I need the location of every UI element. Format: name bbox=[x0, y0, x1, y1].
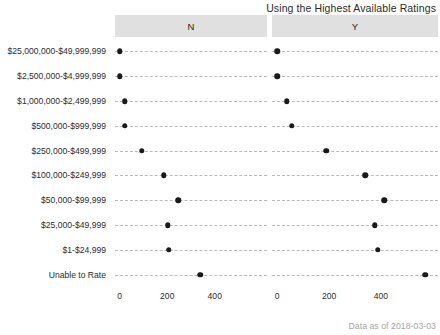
gridline-row bbox=[272, 200, 438, 201]
y-axis-label: $250,000-$499,999 bbox=[31, 145, 106, 157]
gridline-row bbox=[115, 101, 267, 102]
gridline-row bbox=[272, 76, 438, 77]
gridline-row bbox=[272, 151, 438, 152]
data-point[interactable] bbox=[176, 197, 182, 203]
facet-strip-n: N bbox=[115, 15, 267, 37]
gridline-row bbox=[115, 51, 267, 52]
gridline-row bbox=[272, 275, 438, 276]
facet-strip-label-n: N bbox=[115, 15, 267, 37]
y-axis-label: Unable to Rate bbox=[49, 269, 106, 281]
data-point[interactable] bbox=[422, 272, 428, 278]
data-point[interactable] bbox=[166, 247, 172, 253]
gridline-row bbox=[272, 126, 438, 127]
data-point[interactable] bbox=[274, 49, 280, 55]
data-point[interactable] bbox=[165, 222, 171, 228]
y-axis-label: $500,000-$999,999 bbox=[31, 120, 106, 132]
y-axis-label: $25,000-$49,999 bbox=[41, 219, 106, 231]
panel-n bbox=[115, 39, 267, 287]
x-tick-label: 200 bbox=[160, 291, 174, 301]
data-point[interactable] bbox=[324, 148, 330, 154]
x-tick-label: 0 bbox=[117, 291, 122, 301]
data-point[interactable] bbox=[363, 173, 369, 179]
chart-caption: Data as of 2018-03-03 bbox=[0, 321, 436, 331]
data-point[interactable] bbox=[375, 247, 381, 253]
gridline-row bbox=[115, 151, 267, 152]
data-point[interactable] bbox=[122, 98, 128, 104]
y-axis-label: $100,000-$249,999 bbox=[31, 169, 106, 181]
gridline-row bbox=[272, 101, 438, 102]
gridline-row bbox=[115, 76, 267, 77]
y-axis-label: $1-$24,999 bbox=[63, 244, 107, 256]
gridline-row bbox=[115, 225, 267, 226]
gridline-row bbox=[115, 175, 267, 176]
y-axis-label: $2,500,000-$4,999,999 bbox=[17, 70, 106, 82]
data-point[interactable] bbox=[381, 197, 387, 203]
gridline-row bbox=[272, 175, 438, 176]
x-tick-label: 400 bbox=[208, 291, 222, 301]
x-tick-label: 200 bbox=[322, 291, 336, 301]
data-point[interactable] bbox=[161, 173, 167, 179]
data-point[interactable] bbox=[274, 73, 280, 79]
data-point[interactable] bbox=[372, 222, 378, 228]
y-axis-label-group: $25,000,000-$49,999,999$2,500,000-$4,999… bbox=[0, 39, 110, 287]
gridline-row bbox=[272, 250, 438, 251]
panel-y bbox=[272, 39, 438, 287]
facet-strip-label-y: Y bbox=[272, 15, 438, 37]
gridline-row bbox=[115, 275, 267, 276]
gridline-row bbox=[115, 200, 267, 201]
gridline-row bbox=[272, 51, 438, 52]
data-point[interactable] bbox=[139, 148, 145, 154]
gridline-row bbox=[272, 225, 438, 226]
data-point[interactable] bbox=[289, 123, 295, 129]
chart-title: Using the Highest Available Ratings bbox=[0, 2, 436, 14]
y-axis-label: $1,000,000-$2,499,999 bbox=[17, 95, 106, 107]
x-tick-label: 400 bbox=[374, 291, 388, 301]
data-point[interactable] bbox=[117, 49, 123, 55]
data-point[interactable] bbox=[117, 73, 123, 79]
data-point[interactable] bbox=[284, 98, 290, 104]
facet-strip-y: Y bbox=[272, 15, 438, 37]
x-axis-n: 0200400 bbox=[115, 289, 267, 307]
x-tick-label: 0 bbox=[275, 291, 280, 301]
gridline-row bbox=[115, 126, 267, 127]
y-axis-label: $50,000-$99,999 bbox=[41, 194, 106, 206]
gridline-row bbox=[115, 250, 267, 251]
data-point[interactable] bbox=[198, 272, 204, 278]
y-axis-label: $25,000,000-$49,999,999 bbox=[8, 45, 106, 57]
data-point[interactable] bbox=[122, 123, 128, 129]
chart-container: Using the Highest Available Ratings N Y … bbox=[0, 0, 440, 335]
x-axis-y: 0200400 bbox=[272, 289, 438, 307]
